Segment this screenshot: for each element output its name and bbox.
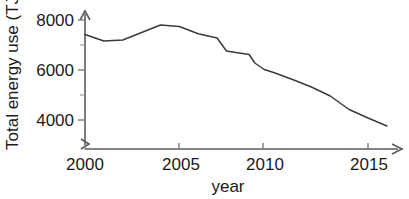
chart-figure: Total energy use (TJ) 8000 6000 4000 — [0, 0, 409, 199]
x-axis — [85, 144, 402, 154]
y-tick-label-4000: 4000 — [36, 111, 74, 130]
x-axis-title: year — [211, 177, 244, 196]
y-axis-title: Total energy use (TJ) — [3, 0, 22, 150]
x-tick-label-2015: 2015 — [350, 155, 388, 174]
x-tick-label-2005: 2005 — [162, 155, 200, 174]
x-axis-ticks — [85, 143, 368, 149]
chart-canvas: Total energy use (TJ) 8000 6000 4000 — [0, 0, 409, 199]
y-tick-label-8000: 8000 — [36, 11, 74, 30]
x-tick-label-2010: 2010 — [246, 155, 284, 174]
data-series-line — [85, 25, 387, 126]
y-axis-ticks — [78, 20, 85, 120]
x-tick-label-2000: 2000 — [66, 155, 104, 174]
y-axis — [80, 11, 90, 149]
y-tick-label-6000: 6000 — [36, 61, 74, 80]
